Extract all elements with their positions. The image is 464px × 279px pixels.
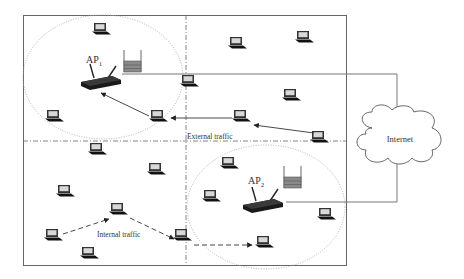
laptop-icon: [147, 163, 166, 175]
ap1-label: AP1: [86, 54, 103, 68]
laptop-icon: [44, 229, 63, 241]
laptop-icon: [45, 110, 64, 122]
laptop-icon: [88, 143, 107, 155]
external-traffic-label: External traffic: [187, 132, 233, 141]
internet-label: Internet: [387, 134, 414, 144]
coverage-area-border: [24, 16, 347, 266]
laptop-icon: [295, 31, 314, 43]
packet-queue-icon: [284, 166, 301, 188]
packet-queue-icon: [124, 50, 141, 72]
internet-cloud-icon: Internet: [357, 105, 441, 164]
ap1-uplink: [122, 74, 397, 114]
internal-traffic-label: Internal traffic: [97, 230, 141, 239]
laptop-icon: [173, 229, 192, 241]
laptop-icon: [317, 208, 336, 220]
laptop-icon: [180, 75, 199, 87]
network-diagram: Internet AP1 AP2: [0, 0, 464, 279]
laptop-icon: [220, 157, 239, 169]
laptop-icon: [232, 110, 251, 122]
laptop-icon: [92, 23, 111, 35]
laptop-icon: [56, 185, 75, 197]
ap1-router: AP1: [81, 50, 141, 90]
external-traffic-path: [101, 93, 314, 133]
laptop-icon: [109, 203, 128, 215]
laptop-icon: [228, 37, 247, 49]
laptop-icon: [202, 190, 221, 202]
laptop-icon: [149, 110, 168, 122]
internal-traffic-path: [63, 218, 252, 245]
ap2-router: AP2: [243, 166, 301, 213]
ap2-uplink: [286, 160, 397, 202]
laptop-icon: [255, 236, 274, 248]
wireless-router-icon: [243, 187, 283, 213]
ap2-label: AP2: [248, 175, 265, 189]
laptop-icon: [80, 247, 99, 259]
laptop-icon: [282, 89, 301, 101]
